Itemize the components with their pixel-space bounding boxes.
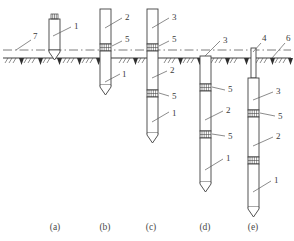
caption-e: (e) — [248, 222, 259, 233]
label-e-4: 4 — [262, 33, 267, 43]
caption-c: (c) — [146, 222, 157, 233]
caption-a: (a) — [50, 222, 61, 233]
panel-d-joint-5-upper — [200, 84, 211, 91]
label-d-3: 3 — [223, 35, 228, 45]
caption-b: (b) — [99, 222, 110, 233]
caption-d: (d) — [199, 222, 210, 233]
panel-e-joint-5-lower — [248, 157, 259, 164]
label-datum-7: 7 — [33, 31, 38, 41]
panel-e-joint-5-upper — [248, 110, 259, 117]
leader-7 — [16, 40, 31, 50]
label-c-2: 2 — [170, 65, 175, 75]
panel-e-pile — [248, 78, 259, 217]
label-d-1: 1 — [226, 153, 231, 163]
label-c-5-lower: 5 — [172, 91, 177, 101]
panel-c-joint-5-upper — [147, 44, 158, 51]
panel-a-pile — [49, 14, 60, 60]
label-e-6: 6 — [286, 33, 291, 43]
label-b-1: 1 — [122, 69, 127, 79]
label-e-2: 2 — [276, 131, 281, 141]
label-b-2: 2 — [125, 12, 130, 22]
label-e-3: 3 — [276, 86, 281, 96]
panel-c-joint-5-lower — [147, 90, 158, 97]
panel-d-joint-5-lower — [200, 131, 211, 138]
label-c-3: 3 — [172, 12, 177, 22]
label-e-5: 5 — [278, 111, 283, 121]
panel-b-joint-5 — [100, 44, 111, 51]
label-b-5: 5 — [125, 34, 130, 44]
label-d-5-lower: 5 — [228, 131, 233, 141]
label-e-1: 1 — [274, 175, 279, 185]
label-c-5-upper: 5 — [172, 34, 177, 44]
label-d-5-upper: 5 — [228, 84, 233, 94]
panel-e-driving-rod — [251, 48, 256, 78]
label-c-1: 1 — [172, 108, 177, 118]
label-a-1: 1 — [74, 21, 79, 31]
figure-canvas: 1 7 2 5 1 — [0, 0, 294, 241]
label-d-2: 2 — [226, 105, 231, 115]
panel-d-pile — [200, 56, 211, 192]
pile-driving-diagram: 1 7 2 5 1 — [0, 0, 294, 241]
